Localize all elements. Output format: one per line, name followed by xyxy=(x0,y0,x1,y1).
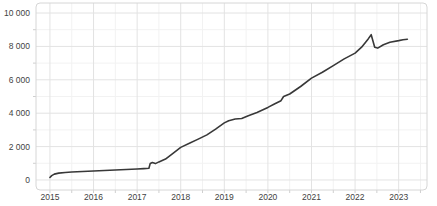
y-tick-label: 8 000 xyxy=(9,41,31,51)
x-tick-label: 2020 xyxy=(258,192,277,202)
x-tick-label: 2015 xyxy=(40,192,59,202)
x-tick-label: 2017 xyxy=(128,192,147,202)
x-tick-label: 2021 xyxy=(302,192,321,202)
line-chart-svg: 02 0004 0006 0008 00010 0002015201620172… xyxy=(0,0,437,206)
x-tick-label: 2022 xyxy=(346,192,365,202)
y-tick-label: 0 xyxy=(25,175,30,185)
y-tick-label: 4 000 xyxy=(9,108,31,118)
x-tick-label: 2019 xyxy=(215,192,234,202)
y-tick-label: 10 000 xyxy=(4,8,30,18)
x-tick-label: 2023 xyxy=(389,192,408,202)
x-tick-label: 2018 xyxy=(171,192,190,202)
y-tick-label: 6 000 xyxy=(9,75,31,85)
x-tick-label: 2016 xyxy=(84,192,103,202)
data-series-line xyxy=(50,35,408,178)
chart: 02 0004 0006 0008 00010 0002015201620172… xyxy=(0,0,437,206)
y-tick-label: 2 000 xyxy=(9,142,31,152)
